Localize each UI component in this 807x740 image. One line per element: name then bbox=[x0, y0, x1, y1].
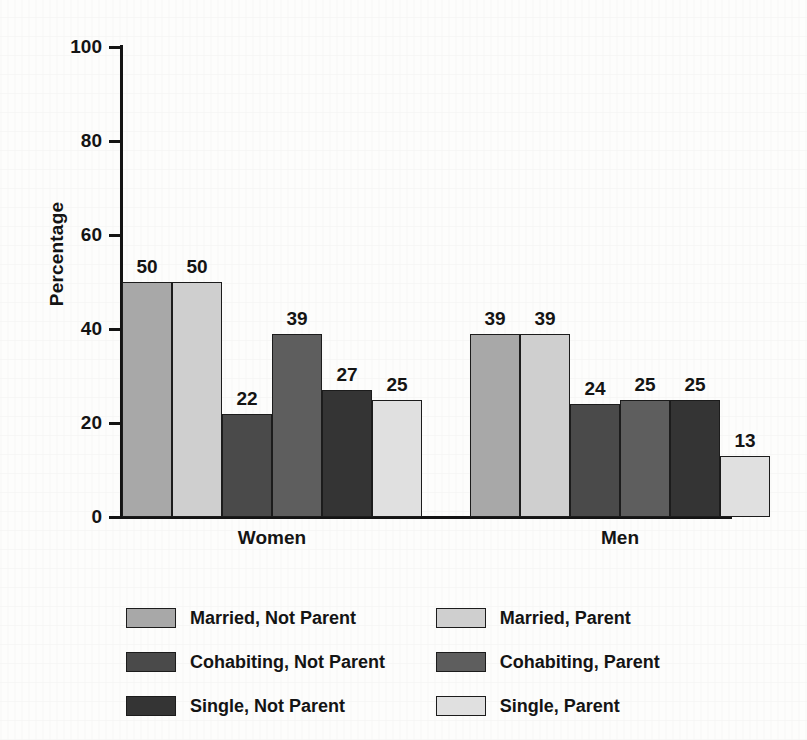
legend-swatch bbox=[436, 652, 486, 672]
bar-value-label: 25 bbox=[660, 375, 730, 394]
y-axis-tick-mark bbox=[109, 140, 121, 143]
y-axis-tick-label: 80 bbox=[44, 131, 102, 150]
legend-label: Single, Parent bbox=[500, 696, 620, 717]
bar-chart-figure: 020406080100 Percentage 5050223927253939… bbox=[0, 0, 807, 740]
y-axis-tick-label: 100 bbox=[44, 37, 102, 56]
y-axis-tick-label-wrap: 80 bbox=[40, 131, 102, 150]
bar bbox=[272, 334, 322, 517]
y-axis-tick-label: 0 bbox=[44, 507, 102, 526]
y-axis-tick-mark bbox=[109, 46, 121, 49]
plot-area: 505022392725393924252513 bbox=[122, 47, 730, 517]
legend-item: Single, Not Parent bbox=[126, 696, 436, 717]
bar bbox=[670, 400, 720, 518]
y-axis-tick-label-wrap: 0 bbox=[40, 507, 102, 526]
legend-swatch bbox=[126, 652, 176, 672]
legend-swatch bbox=[436, 696, 486, 716]
bar bbox=[620, 400, 670, 518]
legend-label: Cohabiting, Not Parent bbox=[190, 652, 385, 673]
legend-item: Married, Parent bbox=[436, 608, 726, 629]
legend-label: Married, Parent bbox=[500, 608, 631, 629]
legend-label: Single, Not Parent bbox=[190, 696, 345, 717]
y-axis-tick-label: 20 bbox=[44, 413, 102, 432]
legend-item: Single, Parent bbox=[436, 696, 726, 717]
legend-row: Single, Not ParentSingle, Parent bbox=[126, 684, 726, 728]
y-axis-tick-mark bbox=[109, 422, 121, 425]
legend-item: Cohabiting, Not Parent bbox=[126, 652, 436, 673]
y-axis-tick-label-wrap: 100 bbox=[40, 37, 102, 56]
y-axis-tick-label-wrap: 20 bbox=[40, 413, 102, 432]
bar bbox=[520, 334, 570, 517]
y-axis-tick-mark bbox=[109, 234, 121, 237]
bar-value-label: 25 bbox=[362, 375, 432, 394]
bar-value-label: 50 bbox=[162, 257, 232, 276]
legend-swatch bbox=[126, 696, 176, 716]
bar-value-label: 13 bbox=[710, 431, 780, 450]
y-axis-tick-mark bbox=[109, 516, 121, 519]
bar-value-label: 39 bbox=[262, 309, 332, 328]
legend-swatch bbox=[436, 608, 486, 628]
bar-value-label: 39 bbox=[510, 309, 580, 328]
legend-row: Married, Not ParentMarried, Parent bbox=[126, 596, 726, 640]
legend-item: Married, Not Parent bbox=[126, 608, 436, 629]
chart-legend: Married, Not ParentMarried, ParentCohabi… bbox=[126, 596, 726, 728]
bar bbox=[470, 334, 520, 517]
bar bbox=[570, 404, 620, 517]
bar bbox=[372, 400, 422, 518]
y-axis-tick-mark bbox=[109, 328, 121, 331]
bar bbox=[222, 414, 272, 517]
legend-swatch bbox=[126, 608, 176, 628]
y-axis-title: Percentage bbox=[46, 164, 68, 344]
bar bbox=[322, 390, 372, 517]
bar bbox=[122, 282, 172, 517]
x-axis-group-label: Women bbox=[192, 527, 352, 549]
legend-label: Cohabiting, Parent bbox=[500, 652, 660, 673]
bar bbox=[720, 456, 770, 517]
legend-label: Married, Not Parent bbox=[190, 608, 356, 629]
legend-row: Cohabiting, Not ParentCohabiting, Parent bbox=[126, 640, 726, 684]
legend-item: Cohabiting, Parent bbox=[436, 652, 726, 673]
x-axis-group-label: Men bbox=[540, 527, 700, 549]
